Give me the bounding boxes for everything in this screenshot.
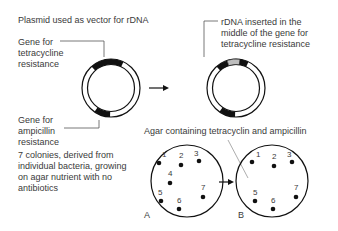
diagram-graphics: 1 2 3 4 5 6 7 1 2 3 5 6 7 bbox=[0, 0, 338, 231]
amp-leader-line bbox=[64, 120, 99, 128]
colony-a-4: 4 bbox=[168, 169, 173, 178]
plasmid-recombinant bbox=[207, 59, 265, 117]
arrow-right-icon bbox=[149, 85, 169, 91]
agar-leader-line bbox=[228, 140, 248, 178]
colony-a-2: 2 bbox=[179, 151, 184, 160]
tet-gene-right-segment bbox=[239, 59, 248, 67]
colony-a-3: 3 bbox=[194, 149, 199, 158]
colony-a-1: 1 bbox=[162, 150, 167, 159]
colony-b-6: 6 bbox=[271, 196, 276, 205]
colony-b-3: 3 bbox=[287, 150, 292, 159]
plasmid-vector bbox=[82, 59, 140, 117]
amp-gene-segment-2 bbox=[220, 108, 236, 118]
rdna-insert-segment bbox=[227, 59, 240, 66]
tet-leader-line bbox=[60, 41, 104, 57]
amp-gene-segment bbox=[95, 108, 111, 118]
colony-a-5: 5 bbox=[158, 188, 163, 197]
colony-b-7: 7 bbox=[294, 183, 299, 192]
colony-b-5: 5 bbox=[253, 188, 258, 197]
petri-dish-b: 1 2 3 5 6 7 bbox=[236, 145, 308, 217]
petri-dish-a: 1 2 3 4 5 6 7 bbox=[151, 145, 223, 217]
arrow-right-icon-2 bbox=[219, 179, 234, 185]
colony-b-1: 1 bbox=[256, 150, 261, 159]
rdna-leader-line bbox=[204, 21, 218, 57]
colony-a-6: 6 bbox=[177, 196, 182, 205]
colony-b-2: 2 bbox=[272, 152, 277, 161]
colony-a-7: 7 bbox=[201, 183, 206, 192]
